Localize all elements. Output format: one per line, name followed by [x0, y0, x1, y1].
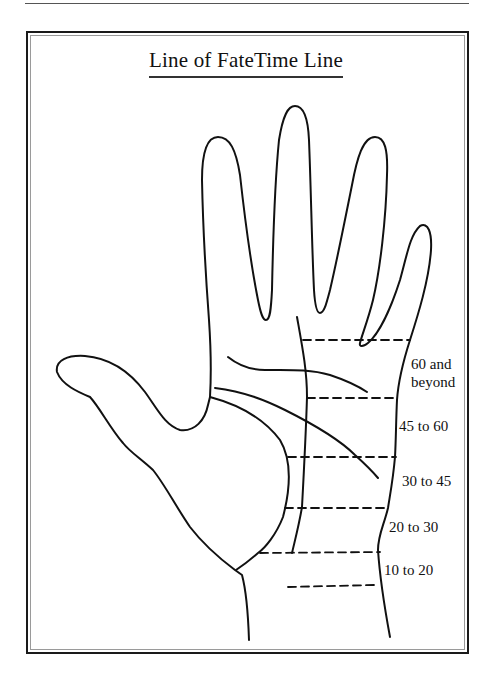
age-label-line1: 60 and — [411, 355, 455, 373]
hand-outline — [57, 106, 431, 640]
age-label-10-20: 10 to 20 — [384, 561, 433, 579]
life-line — [210, 397, 289, 570]
age-label-30-45: 30 to 45 — [402, 472, 451, 490]
age-divider-10 — [260, 552, 380, 553]
head-line — [215, 388, 378, 478]
age-label-line2: beyond — [411, 373, 455, 391]
age-label-20-30: 20 to 30 — [389, 518, 438, 536]
age-divider-start — [288, 585, 375, 587]
hand-diagram — [0, 0, 492, 682]
age-label-60-beyond: 60 and beyond — [411, 355, 455, 391]
age-label-45-60: 45 to 60 — [399, 417, 448, 435]
fate-line — [292, 317, 307, 553]
heart-line — [228, 357, 367, 392]
